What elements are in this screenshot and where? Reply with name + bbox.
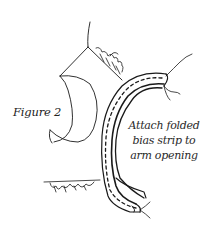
caption-line-2: bias strip to (124, 133, 203, 148)
garment-bodice-outline (60, 22, 122, 80)
figure-caption: Attach folded bias strip to arm opening (124, 118, 203, 163)
caption-line-3: arm opening (124, 148, 203, 163)
frayed-seam-allowance-bottom (44, 180, 100, 192)
figure-canvas: Figure 2 Attach folded bias strip to arm… (0, 0, 203, 226)
frayed-seam-allowance-top (96, 48, 123, 75)
figure-label: Figure 2 (13, 105, 61, 119)
caption-line-1: Attach folded (124, 118, 203, 133)
